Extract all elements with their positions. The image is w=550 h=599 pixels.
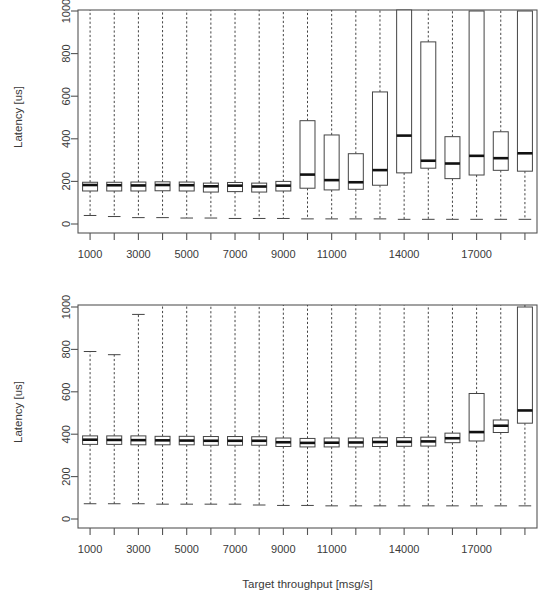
x-tick-label: 11000 bbox=[317, 543, 347, 555]
boxplot-group bbox=[300, 305, 315, 505]
x-tick-label: 14000 bbox=[389, 248, 420, 260]
boxplot-group bbox=[421, 10, 436, 219]
boxplot-group bbox=[300, 10, 315, 219]
x-tick-label: 5000 bbox=[174, 248, 198, 260]
boxplot-group bbox=[276, 305, 291, 505]
x-tick-label: 14000 bbox=[389, 543, 420, 555]
boxplot-group bbox=[397, 305, 412, 506]
y-tick-label: 400 bbox=[60, 425, 72, 443]
boxplot-group bbox=[107, 355, 122, 504]
figure-canvas: 02004006008001000Latency [us]10003000500… bbox=[0, 0, 550, 599]
boxplot-group bbox=[228, 10, 243, 218]
boxplot-group bbox=[107, 10, 122, 217]
boxplot-group bbox=[252, 305, 267, 505]
boxplot-group bbox=[445, 305, 460, 506]
x-tick-label: 5000 bbox=[174, 543, 198, 555]
boxplot-group bbox=[83, 352, 98, 504]
box-iqr bbox=[107, 182, 122, 191]
boxplot-group bbox=[179, 10, 194, 218]
boxplot-group bbox=[469, 305, 484, 506]
boxplot-group bbox=[131, 10, 146, 218]
box-iqr bbox=[324, 135, 339, 190]
y-tick-label: 400 bbox=[60, 130, 72, 148]
box-iqr bbox=[517, 11, 532, 171]
boxplot-group bbox=[517, 11, 532, 219]
y-axis-title: Latency [us] bbox=[12, 381, 24, 443]
boxplot-group bbox=[421, 305, 436, 506]
boxplot-group bbox=[203, 305, 218, 504]
boxplot-group bbox=[155, 305, 170, 504]
box-iqr bbox=[83, 182, 98, 191]
y-tick-label: 0 bbox=[60, 221, 72, 227]
boxplot-group bbox=[252, 10, 267, 218]
plot-frame bbox=[78, 305, 537, 528]
boxplot-group bbox=[324, 10, 339, 219]
x-tick-label: 7000 bbox=[223, 543, 247, 555]
y-tick-label: 1000 bbox=[60, 0, 72, 23]
boxplot-group bbox=[155, 10, 170, 218]
boxplot-group bbox=[179, 305, 194, 504]
y-tick-label: 600 bbox=[60, 87, 72, 105]
boxplot-group bbox=[372, 10, 387, 219]
x-tick-label: 9000 bbox=[271, 248, 295, 260]
y-axis-title: Latency [us] bbox=[12, 86, 24, 148]
x-tick-label: 3000 bbox=[126, 248, 150, 260]
x-tick-label: 7000 bbox=[223, 248, 247, 260]
x-axis-title: Target throughput [msg/s] bbox=[242, 578, 372, 590]
x-tick-label: 3000 bbox=[126, 543, 150, 555]
boxplot-group bbox=[445, 10, 460, 219]
boxplot-group bbox=[493, 10, 508, 219]
x-tick-label: 9000 bbox=[271, 543, 295, 555]
x-tick-label: 1000 bbox=[78, 543, 102, 555]
boxplot-group bbox=[276, 10, 291, 218]
y-tick-label: 600 bbox=[60, 383, 72, 401]
box-iqr bbox=[517, 307, 532, 423]
x-tick-label: 17000 bbox=[461, 248, 492, 260]
y-tick-label: 800 bbox=[60, 340, 72, 358]
y-tick-label: 0 bbox=[60, 516, 72, 522]
boxplot-group bbox=[228, 305, 243, 504]
boxplot-group bbox=[131, 314, 146, 503]
boxplot-group bbox=[324, 305, 339, 506]
top-panel: 02004006008001000Latency [us]10003000500… bbox=[12, 0, 537, 260]
x-tick-label: 17000 bbox=[461, 543, 492, 555]
box-iqr bbox=[493, 132, 508, 171]
boxplot-group bbox=[493, 305, 508, 506]
y-tick-label: 1000 bbox=[60, 295, 72, 319]
box-iqr bbox=[469, 11, 484, 175]
box-iqr bbox=[348, 154, 363, 190]
box-iqr bbox=[469, 393, 484, 440]
boxplot-group bbox=[203, 10, 218, 218]
box-iqr bbox=[421, 42, 436, 168]
box-iqr bbox=[445, 137, 460, 179]
y-tick-label: 200 bbox=[60, 467, 72, 485]
boxplot-group bbox=[397, 10, 412, 219]
boxplot-group bbox=[348, 305, 363, 506]
x-tick-label: 1000 bbox=[78, 248, 102, 260]
boxplot-group bbox=[372, 305, 387, 506]
y-tick-label: 200 bbox=[60, 172, 72, 190]
boxplot-figure: 02004006008001000Latency [us]10003000500… bbox=[0, 0, 550, 599]
bottom-panel: 02004006008001000Latency [us]10003000500… bbox=[12, 295, 537, 590]
box-iqr bbox=[228, 182, 243, 191]
boxplot-group bbox=[348, 10, 363, 219]
x-tick-label: 11000 bbox=[317, 248, 347, 260]
boxplot-group bbox=[83, 10, 98, 215]
box-iqr bbox=[397, 10, 412, 173]
y-tick-label: 800 bbox=[60, 44, 72, 62]
box-iqr bbox=[300, 121, 315, 189]
boxplot-group bbox=[517, 305, 532, 506]
boxplot-group bbox=[469, 11, 484, 219]
